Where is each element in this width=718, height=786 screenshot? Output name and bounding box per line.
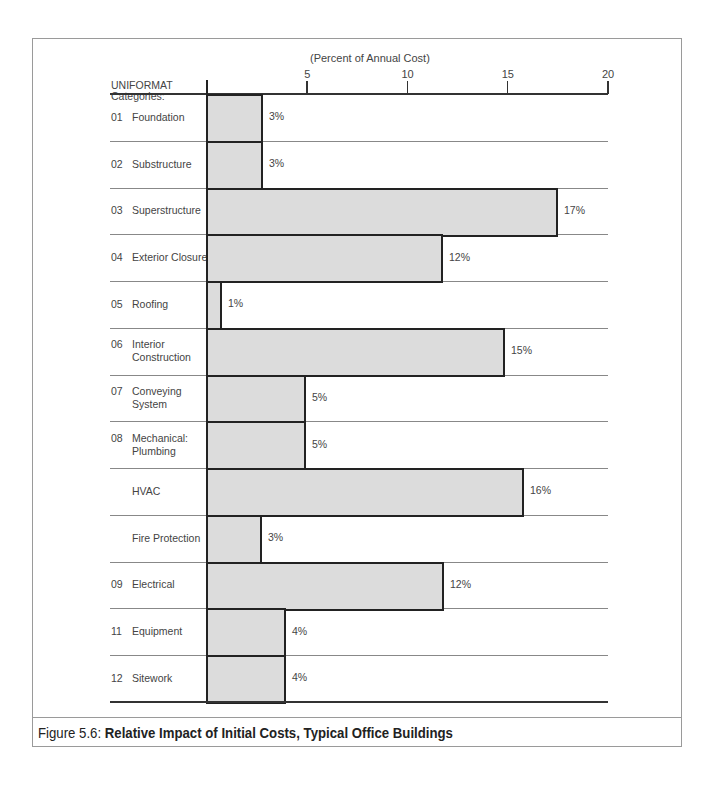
bar: [206, 188, 558, 237]
value-label: 12%: [450, 578, 471, 590]
category-code: [111, 532, 132, 545]
value-label: 16%: [530, 484, 551, 496]
category-name: Foundation: [132, 111, 185, 124]
category-label: 12Sitework: [111, 672, 172, 685]
category-label: 11Equipment: [111, 625, 182, 638]
value-label: 5%: [312, 391, 327, 403]
category-name: Mechanical: Plumbing: [132, 432, 188, 458]
category-name: Sitework: [132, 672, 172, 685]
category-label: HVAC: [111, 485, 160, 498]
category-code: 02: [111, 158, 132, 171]
caption-title: Relative Impact of Initial Costs, Typica…: [105, 724, 453, 741]
x-tick-label-15: 15: [502, 68, 514, 80]
category-code: 08: [111, 432, 132, 458]
category-name: Equipment: [132, 625, 182, 638]
category-label: 04Exterior Closure: [111, 251, 207, 264]
value-label: 4%: [292, 671, 307, 683]
caption-divider: [32, 717, 682, 718]
x-tick-5: [306, 81, 308, 94]
bar: [206, 281, 222, 330]
category-name: Fire Protection: [132, 532, 200, 545]
category-name: Substructure: [132, 158, 192, 171]
category-label: 07Conveying System: [111, 385, 182, 411]
category-name: Roofing: [132, 298, 168, 311]
value-label: 3%: [269, 110, 284, 122]
row-divider: [110, 141, 608, 142]
bar: [206, 328, 505, 377]
caption-prefix: Figure 5.6:: [38, 724, 105, 741]
bar: [206, 421, 306, 470]
category-name: Interior Construction: [132, 338, 191, 364]
x-tick-label-10: 10: [401, 68, 413, 80]
category-code: [111, 485, 132, 498]
x-axis-title: (Percent of Annual Cost): [310, 52, 430, 64]
category-label: Fire Protection: [111, 532, 200, 545]
value-label: 15%: [511, 344, 532, 356]
figure-caption: Figure 5.6: Relative Impact of Initial C…: [38, 720, 453, 746]
bar: [206, 655, 286, 704]
bar: [206, 608, 286, 657]
category-name: Superstructure: [132, 204, 201, 217]
category-name: Electrical: [132, 578, 175, 591]
x-axis-bottom-line: [110, 701, 608, 703]
value-label: 3%: [268, 531, 283, 543]
value-label: 1%: [228, 297, 243, 309]
bar: [206, 468, 524, 517]
category-label: 01Foundation: [111, 111, 185, 124]
category-code: 01: [111, 111, 132, 124]
bar: [206, 141, 263, 190]
x-tick-20: [607, 81, 609, 94]
x-axis-line: [110, 93, 608, 95]
x-tick-label-20: 20: [602, 68, 614, 80]
category-code: 04: [111, 251, 132, 264]
category-code: 05: [111, 298, 132, 311]
x-tick-10: [407, 81, 409, 94]
bar: [206, 562, 444, 611]
row-divider: [110, 421, 608, 422]
value-label: 3%: [269, 157, 284, 169]
category-label: 03Superstructure: [111, 204, 201, 217]
category-code: 12: [111, 672, 132, 685]
category-header: UNIFORMAT Categories:: [111, 80, 173, 102]
x-tick-15: [507, 81, 509, 94]
category-code: 11: [111, 625, 132, 638]
bar: [206, 515, 262, 564]
bar: [206, 94, 263, 143]
category-name: HVAC: [132, 485, 160, 498]
category-label: 02Substructure: [111, 158, 192, 171]
x-tick-label-5: 5: [304, 68, 310, 80]
bar: [206, 375, 306, 424]
category-label: 08Mechanical: Plumbing: [111, 432, 188, 458]
value-label: 4%: [292, 625, 307, 637]
bar: [206, 234, 443, 283]
category-code: 09: [111, 578, 132, 591]
category-code: 06: [111, 338, 132, 364]
value-label: 5%: [312, 438, 327, 450]
category-name: Conveying System: [132, 385, 182, 411]
row-divider: [110, 655, 608, 656]
category-name: Exterior Closure: [132, 251, 207, 264]
category-code: 07: [111, 385, 132, 411]
category-label: 06Interior Construction: [111, 338, 191, 364]
category-label: 05Roofing: [111, 298, 168, 311]
category-label: 09Electrical: [111, 578, 175, 591]
category-code: 03: [111, 204, 132, 217]
value-label: 12%: [449, 251, 470, 263]
value-label: 17%: [564, 204, 585, 216]
